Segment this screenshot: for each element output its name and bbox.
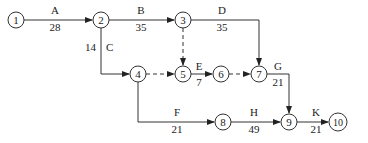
node-7: 7: [251, 66, 267, 82]
svg-text:1: 1: [13, 14, 19, 26]
svg-text:7: 7: [256, 68, 262, 80]
activity-f-duration: 21: [172, 123, 183, 135]
activity-d-duration: 35: [217, 21, 229, 33]
node-2: 2: [93, 12, 109, 28]
activity-c-name: C: [106, 41, 113, 53]
node-10: 10: [329, 113, 347, 131]
svg-text:4: 4: [135, 68, 141, 80]
activity-a-duration: 28: [50, 21, 62, 33]
svg-text:5: 5: [180, 68, 186, 80]
activity-k-name: K: [312, 106, 320, 118]
activity-c-duration: 14: [85, 41, 97, 53]
node-8: 8: [215, 114, 231, 130]
activity-f-name: F: [174, 106, 180, 118]
node-5: 5: [175, 66, 191, 82]
node-1: 1: [8, 12, 24, 28]
svg-text:9: 9: [286, 116, 292, 128]
activity-e-duration: 7: [196, 76, 202, 88]
network-diagram: A 28 B 35 C 14 D 35 E 7 G 21 F 21 H 49 K…: [0, 0, 368, 143]
svg-text:6: 6: [218, 68, 224, 80]
node-6: 6: [213, 66, 229, 82]
activity-h-name: H: [250, 106, 258, 118]
activity-g-duration: 21: [273, 76, 284, 88]
node-4: 4: [130, 66, 146, 82]
activity-b-duration: 35: [136, 21, 148, 33]
svg-text:8: 8: [220, 116, 226, 128]
node-3: 3: [175, 12, 191, 28]
svg-text:3: 3: [180, 14, 186, 26]
activity-k-duration: 21: [311, 123, 322, 135]
activity-h-duration: 49: [249, 123, 261, 135]
activity-e-name: E: [196, 60, 203, 72]
activity-b-name: B: [137, 4, 144, 16]
activity-d-name: D: [218, 4, 226, 16]
activity-g-name: G: [274, 60, 282, 72]
node-9: 9: [281, 114, 297, 130]
svg-text:2: 2: [98, 14, 104, 26]
svg-text:10: 10: [333, 117, 343, 128]
activity-a-name: A: [51, 4, 59, 16]
